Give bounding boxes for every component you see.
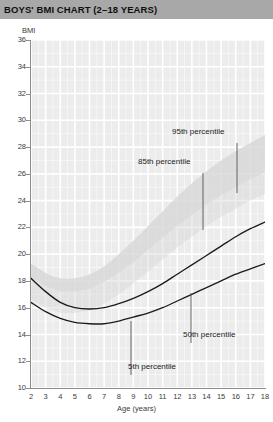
annotation-85th-percentile: 85th percentile xyxy=(138,157,190,166)
x-tick-label: 18 xyxy=(258,392,272,401)
x-tick-label: 7 xyxy=(97,392,111,401)
y-tick-mark xyxy=(26,388,31,389)
x-tick-label: 12 xyxy=(170,392,184,401)
y-tick-label: 22 xyxy=(8,223,26,231)
y-tick-label: 30 xyxy=(8,116,26,124)
x-tick-label: 14 xyxy=(200,392,214,401)
y-tick-label: 34 xyxy=(8,63,26,71)
x-tick-label: 8 xyxy=(112,392,126,401)
y-tick-label: 26 xyxy=(8,170,26,178)
x-tick-label: 15 xyxy=(214,392,228,401)
chart-title-bar: BOYS' BMI CHART (2–18 YEARS) xyxy=(0,0,273,19)
x-tick-label: 17 xyxy=(243,392,257,401)
y-tick-label: 12 xyxy=(8,357,26,365)
annotation-50th-percentile: 50th percentile xyxy=(183,330,235,339)
x-tick-label: 16 xyxy=(229,392,243,401)
x-axis-line xyxy=(30,388,266,389)
x-tick-label: 4 xyxy=(53,392,67,401)
y-tick-label: 18 xyxy=(8,277,26,285)
x-tick-label: 9 xyxy=(126,392,140,401)
y-tick-label: 24 xyxy=(8,197,26,205)
x-tick-label: 6 xyxy=(83,392,97,401)
x-tick-label: 10 xyxy=(141,392,155,401)
y-tick-label: 16 xyxy=(8,304,26,312)
x-tick-label: 3 xyxy=(39,392,53,401)
x-tick-label: 2 xyxy=(24,392,38,401)
y-tick-label: 32 xyxy=(8,90,26,98)
y-axis-caption: BMI xyxy=(22,26,35,35)
x-axis-caption: Age (years) xyxy=(0,404,273,413)
page-title: BOYS' BMI CHART (2–18 YEARS) xyxy=(0,4,157,15)
x-tick-label: 5 xyxy=(68,392,82,401)
x-tick-label: 11 xyxy=(156,392,170,401)
annotation-95th-percentile: 95th percentile xyxy=(172,127,224,136)
bmi-chart-card: BOYS' BMI CHART (2–18 YEARS) BMI Age (ye… xyxy=(0,0,273,422)
y-tick-label: 10 xyxy=(8,384,26,392)
y-tick-label: 20 xyxy=(8,250,26,258)
y-tick-label: 36 xyxy=(8,36,26,44)
x-tick-label: 13 xyxy=(185,392,199,401)
y-tick-label: 14 xyxy=(8,331,26,339)
annotation-5th-percentile: 5th percentile xyxy=(128,362,176,371)
y-tick-label: 28 xyxy=(8,143,26,151)
